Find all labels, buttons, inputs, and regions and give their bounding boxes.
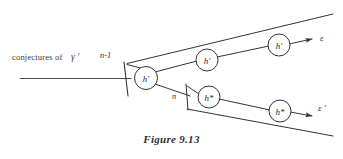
root-to-upper-mid-edge <box>155 61 197 72</box>
gamma-prime-symbol: γ ′ <box>71 51 79 62</box>
stage-n-tick <box>186 84 188 110</box>
upper-mid-to-upper-right-edge <box>217 46 269 57</box>
figure-caption: Figure 9.13 <box>0 133 343 145</box>
conjectures-of-label: conjectures of <box>12 52 63 62</box>
upper-cone-top-edge <box>127 14 333 64</box>
node-upper-right-label: h′ <box>276 41 284 51</box>
lower-output-arrow <box>290 112 312 116</box>
lower-cone-bottom-edge <box>187 109 333 136</box>
stage-n-minus-1-label: n-1 <box>100 51 111 60</box>
node-group: h′ h′ h′ h* h* <box>135 34 292 122</box>
node-lower-mid-label: h* <box>205 93 215 103</box>
node-upper-mid-label: h′ <box>204 56 212 66</box>
epsilon-output-label: ε <box>320 33 324 43</box>
node-lower-right-label: h* <box>276 107 286 117</box>
upper-output-arrow <box>289 39 312 44</box>
epsilon-prime-output-label: ε ′ <box>318 103 326 113</box>
lower-cone-top-edge <box>187 86 199 94</box>
stage-n-label: n <box>172 92 176 101</box>
figure-page: h′ h′ h′ h* h* conjectures of γ ′ n-1 n … <box>0 0 343 159</box>
lower-mid-to-lower-right-edge <box>219 99 270 110</box>
node-root-label: h′ <box>143 74 151 84</box>
